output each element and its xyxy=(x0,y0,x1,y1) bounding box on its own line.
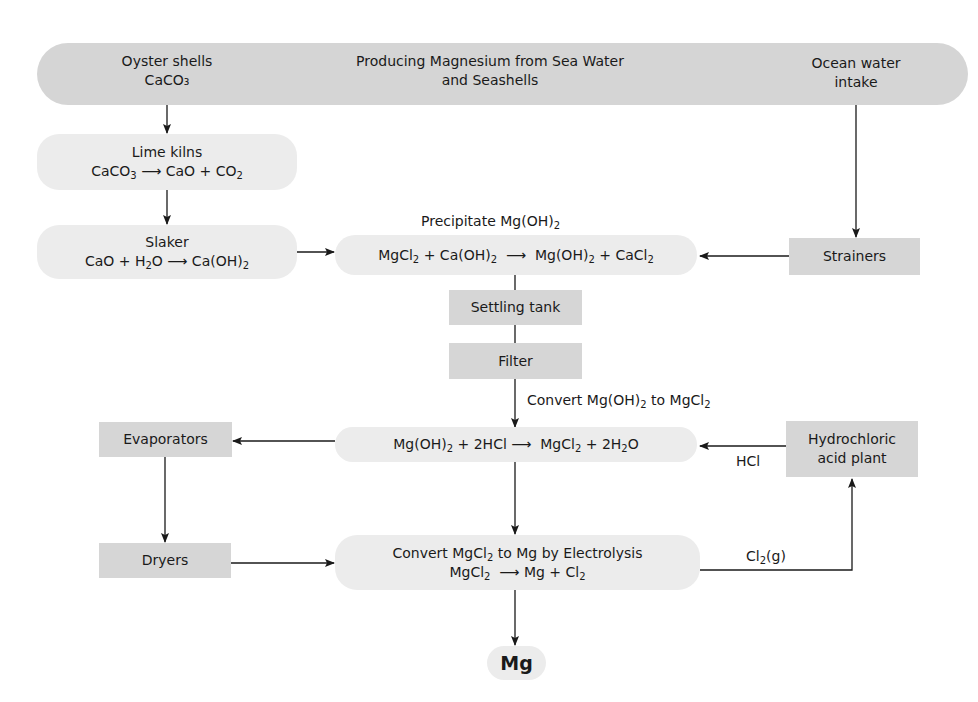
dryers-node: Dryers xyxy=(99,543,231,578)
hcl-plant-line1: Hydrochloric xyxy=(808,430,896,449)
oyster-shells-formula: CaCO₃ xyxy=(145,71,190,90)
precipitate-reaction-node: MgCl2 + Ca(OH)2 ⟶ Mg(OH)2 + CaCl2 xyxy=(335,235,697,275)
cl2-gas-label: Cl2(g) xyxy=(746,547,786,565)
hydrochloric-acid-plant-node: Hydrochloric acid plant xyxy=(786,421,918,477)
convert-to-mgcl2-caption: Convert Mg(OH)2 to MgCl2 xyxy=(527,391,711,409)
lime-kilns-title: Lime kilns xyxy=(132,143,202,162)
magnesium-product-node: Mg xyxy=(487,646,546,680)
ocean-water-line2: intake xyxy=(834,73,877,92)
settling-tank-label: Settling tank xyxy=(471,298,561,317)
reaction-arrow: ⟶ xyxy=(167,253,187,269)
oyster-shells-node: Oyster shells CaCO₃ xyxy=(87,46,247,96)
evaporators-node: Evaporators xyxy=(99,422,232,457)
oyster-shells-label: Oyster shells xyxy=(122,52,213,71)
ocean-water-intake-node: Ocean water intake xyxy=(790,48,922,98)
diagram-title-line1: Producing Magnesium from Sea Water xyxy=(356,52,624,71)
strainers-node: Strainers xyxy=(789,238,920,275)
hcl-plant-line2: acid plant xyxy=(817,449,886,468)
reaction-arrow: ⟶ xyxy=(141,163,161,179)
slaker-equation: CaO + H2O ⟶ Ca(OH)2 xyxy=(85,252,249,271)
magnesium-label: Mg xyxy=(500,654,533,673)
dryers-label: Dryers xyxy=(142,551,188,570)
evaporators-label: Evaporators xyxy=(123,430,208,449)
electrolysis-equation: MgCl2 ⟶ Mg + Cl2 xyxy=(449,563,585,582)
lime-kilns-equation: CaCO3 ⟶ CaO + CO2 xyxy=(91,162,243,181)
lime-kilns-node: Lime kilns CaCO3 ⟶ CaO + CO2 xyxy=(37,134,297,190)
filter-node: Filter xyxy=(449,343,582,379)
electrolysis-title: Convert MgCl2 to Mg by Electrolysis xyxy=(392,544,642,563)
hcl-flow-label: HCl xyxy=(736,452,760,470)
precipitate-equation: MgCl2 + Ca(OH)2 ⟶ Mg(OH)2 + CaCl2 xyxy=(378,246,654,265)
filter-label: Filter xyxy=(498,352,533,371)
strainers-label: Strainers xyxy=(823,247,886,266)
ocean-water-line1: Ocean water xyxy=(811,54,900,73)
hcl-reaction-node: Mg(OH)2 + 2HCl ⟶ MgCl2 + 2H2O xyxy=(335,427,697,462)
precipitate-caption: Precipitate Mg(OH)2 xyxy=(421,212,560,230)
settling-tank-node: Settling tank xyxy=(449,290,582,325)
hcl-reaction-equation: Mg(OH)2 + 2HCl ⟶ MgCl2 + 2H2O xyxy=(393,435,638,454)
slaker-title: Slaker xyxy=(145,233,188,252)
diagram-title-line2: and Seashells xyxy=(442,71,539,90)
slaker-node: Slaker CaO + H2O ⟶ Ca(OH)2 xyxy=(37,225,297,279)
diagram-title: Producing Magnesium from Sea Water and S… xyxy=(330,46,650,96)
electrolysis-node: Convert MgCl2 to Mg by Electrolysis MgCl… xyxy=(335,535,700,590)
